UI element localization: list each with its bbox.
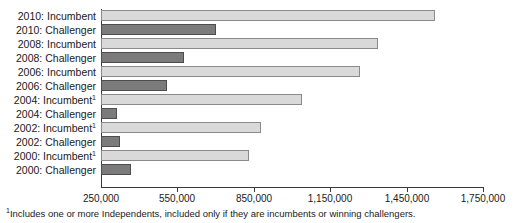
bar-incumbent[interactable] bbox=[101, 122, 261, 133]
bar-row-label: 2002: Challenger bbox=[16, 135, 96, 149]
bar-row: 2002: Challenger bbox=[0, 135, 517, 149]
bar-track bbox=[101, 80, 483, 91]
bar-track bbox=[101, 94, 483, 105]
bar-row: 2006: Incumbent bbox=[0, 65, 517, 79]
bar-challenger[interactable] bbox=[101, 108, 117, 119]
bar-row-label: 2010: Challenger bbox=[16, 23, 96, 37]
x-axis-tick-label: 1,750,000 bbox=[461, 193, 506, 204]
bar-challenger[interactable] bbox=[101, 164, 131, 175]
bar-track bbox=[101, 122, 483, 133]
bar-incumbent[interactable] bbox=[101, 94, 302, 105]
bar-incumbent[interactable] bbox=[101, 150, 249, 161]
x-axis-line bbox=[101, 187, 484, 188]
x-axis-tick bbox=[330, 188, 331, 192]
x-axis-tick-label: 550,000 bbox=[159, 193, 195, 204]
bar-row-label: 2008: Incumbent bbox=[18, 37, 96, 51]
bar-track bbox=[101, 66, 483, 77]
x-axis-tick bbox=[483, 188, 484, 192]
x-axis-tick bbox=[254, 188, 255, 192]
bar-row-label: 2008: Challenger bbox=[16, 51, 96, 65]
x-axis-tick bbox=[177, 188, 178, 192]
bar-track bbox=[101, 136, 483, 147]
bar-row-label: 2002: Incumbent1 bbox=[14, 121, 96, 135]
label-footnote-marker: 1 bbox=[92, 94, 96, 101]
footnote-text: Includes one or more Independents, inclu… bbox=[10, 208, 416, 219]
bar-incumbent[interactable] bbox=[101, 38, 378, 49]
bar-track bbox=[101, 10, 483, 21]
bar-row: 2008: Challenger bbox=[0, 51, 517, 65]
bar-row-label: 2006: Challenger bbox=[16, 79, 96, 93]
bar-track bbox=[101, 38, 483, 49]
x-axis-tick bbox=[407, 188, 408, 192]
bar-row: 2010: Incumbent bbox=[0, 9, 517, 23]
bar-row: 2004: Incumbent1 bbox=[0, 93, 517, 107]
bar-row: 2006: Challenger bbox=[0, 79, 517, 93]
bar-row: 2000: Incumbent1 bbox=[0, 149, 517, 163]
bar-challenger[interactable] bbox=[101, 80, 167, 91]
bar-track bbox=[101, 150, 483, 161]
bar-row: 2000: Challenger bbox=[0, 163, 517, 177]
x-axis-tick-label: 1,150,000 bbox=[308, 193, 353, 204]
bar-challenger[interactable] bbox=[101, 136, 120, 147]
bar-row-label: 2004: Incumbent1 bbox=[14, 93, 96, 107]
bar-track bbox=[101, 108, 483, 119]
bar-chart: 2010: Incumbent2010: Challenger2008: Inc… bbox=[0, 0, 517, 223]
bar-incumbent[interactable] bbox=[101, 10, 435, 21]
x-axis-tick-label: 1,450,000 bbox=[385, 193, 430, 204]
bar-row: 2010: Challenger bbox=[0, 23, 517, 37]
bar-row-label: 2006: Incumbent bbox=[18, 65, 96, 79]
bar-row-label: 2004: Challenger bbox=[16, 107, 96, 121]
label-footnote-marker: 1 bbox=[92, 150, 96, 157]
bar-track bbox=[101, 164, 483, 175]
bar-row-label: 2000: Challenger bbox=[16, 163, 96, 177]
x-axis-tick-label: 250,000 bbox=[83, 193, 119, 204]
bar-challenger[interactable] bbox=[101, 24, 216, 35]
bar-row: 2004: Challenger bbox=[0, 107, 517, 121]
bar-row: 2002: Incumbent1 bbox=[0, 121, 517, 135]
x-axis-tick-label: 850,000 bbox=[236, 193, 272, 204]
bar-incumbent[interactable] bbox=[101, 66, 360, 77]
bar-track bbox=[101, 52, 483, 63]
bar-row-label: 2000: Incumbent1 bbox=[14, 149, 96, 163]
bar-challenger[interactable] bbox=[101, 52, 184, 63]
bar-track bbox=[101, 24, 483, 35]
bar-row: 2008: Incumbent bbox=[0, 37, 517, 51]
label-footnote-marker: 1 bbox=[92, 122, 96, 129]
bar-rows: 2010: Incumbent2010: Challenger2008: Inc… bbox=[0, 9, 517, 187]
chart-footnote: 1Includes one or more Independents, incl… bbox=[6, 208, 415, 219]
bar-row-label: 2010: Incumbent bbox=[18, 9, 96, 23]
